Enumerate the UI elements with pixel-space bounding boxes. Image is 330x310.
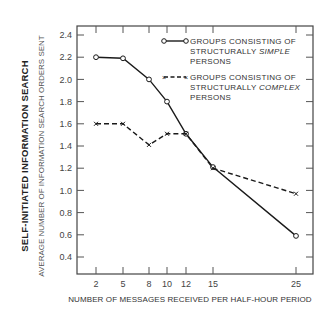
- series-complex: [94, 122, 298, 196]
- y-tick-label: 2.4: [59, 30, 72, 40]
- series-line: [96, 124, 296, 194]
- legend-label-line3: PERSONS: [190, 57, 231, 66]
- circle-marker-icon: [94, 55, 99, 60]
- x-marker-icon: [294, 192, 298, 196]
- y-axis-subtitle: AVERAGE NUMBER OF INFORMATION SEARCH ORD…: [37, 35, 46, 277]
- circle-marker-icon: [147, 77, 152, 82]
- legend-x-marker-icon: ×: [184, 74, 188, 81]
- y-tick-label: 2.2: [59, 52, 72, 62]
- x-tick-label: 2: [93, 279, 98, 289]
- legend-circle-marker-icon: [162, 39, 167, 44]
- y-axis-ticks: 0.40.60.81.01.21.41.61.82.02.22.4: [59, 30, 313, 262]
- y-axis-title: SELF-INITIATED INFORMATION SEARCH: [19, 60, 30, 252]
- legend-label-line1: GROUPS CONSISTING OF: [190, 73, 296, 82]
- x-tick-label: 25: [291, 279, 301, 289]
- circle-marker-icon: [165, 99, 170, 104]
- y-tick-label: 1.0: [59, 186, 72, 196]
- legend: GROUPS CONSISTING OF STRUCTURALLY SIMPLE…: [162, 37, 301, 102]
- legend-item-simple: GROUPS CONSISTING OF STRUCTURALLY SIMPLE…: [162, 37, 296, 66]
- legend-label-line1: GROUPS CONSISTING OF: [190, 37, 296, 46]
- legend-label-line2: STRUCTURALLY SIMPLE: [190, 47, 290, 56]
- x-tick-label: 5: [120, 279, 125, 289]
- y-tick-label: 0.8: [59, 208, 72, 218]
- y-tick-label: 1.6: [59, 119, 72, 129]
- legend-x-marker-icon: ×: [162, 74, 166, 81]
- y-tick-label: 0.6: [59, 230, 72, 240]
- y-tick-label: 1.2: [59, 163, 72, 173]
- legend-circle-marker-icon: [184, 39, 189, 44]
- legend-item-complex: × × GROUPS CONSISTING OF STRUCTURALLY CO…: [162, 73, 301, 102]
- circle-marker-icon: [294, 234, 299, 239]
- y-tick-label: 0.4: [59, 252, 72, 262]
- y-tick-label: 2.0: [59, 75, 72, 85]
- x-tick-label: 12: [181, 279, 191, 289]
- legend-label-line2: STRUCTURALLY COMPLEX: [190, 83, 301, 92]
- x-tick-label: 15: [208, 279, 218, 289]
- y-tick-label: 1.4: [59, 141, 72, 151]
- x-tick-label: 10: [162, 279, 172, 289]
- circle-marker-icon: [121, 56, 126, 61]
- x-tick-label: 8: [146, 279, 151, 289]
- x-marker-icon: [147, 143, 151, 147]
- line-chart: SELF-INITIATED INFORMATION SEARCH AVERAG…: [0, 0, 330, 310]
- legend-label-line3: PERSONS: [190, 93, 231, 102]
- y-tick-label: 1.8: [59, 97, 72, 107]
- x-axis-title: NUMBER OF MESSAGES RECEIVED PER HALF-HOU…: [68, 295, 312, 304]
